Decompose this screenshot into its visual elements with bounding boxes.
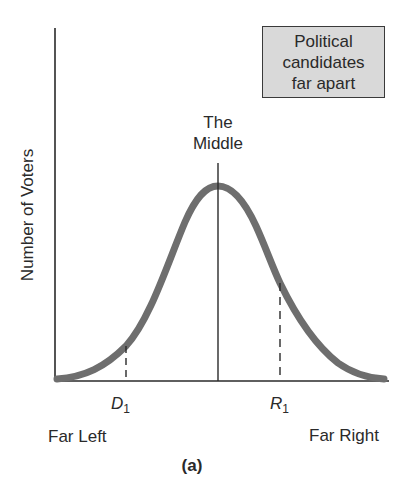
far-right-label: Far Right [309,426,379,446]
r1-label: R1 [270,394,289,416]
callout-line-2: candidates [282,52,364,73]
far-left-label: Far Left [48,427,107,447]
middle-label-line-1: The [193,112,243,133]
callout-line-1: Political [294,31,353,52]
r1-subscript: 1 [282,402,289,416]
middle-label-line-2: Middle [193,133,243,154]
median-voter-figure: Political candidates far apart Number of… [0,0,412,500]
d1-subscript: 1 [123,402,130,416]
middle-label: The Middle [193,112,243,154]
callout-line-3: far apart [292,73,355,94]
d1-label: D1 [111,394,130,416]
r1-letter: R [270,394,282,413]
y-axis-label: Number of Voters [18,149,38,281]
voter-distribution-curve [57,186,384,379]
callout-box: Political candidates far apart [262,26,385,98]
d1-letter: D [111,394,123,413]
panel-caption: (a) [182,456,203,476]
